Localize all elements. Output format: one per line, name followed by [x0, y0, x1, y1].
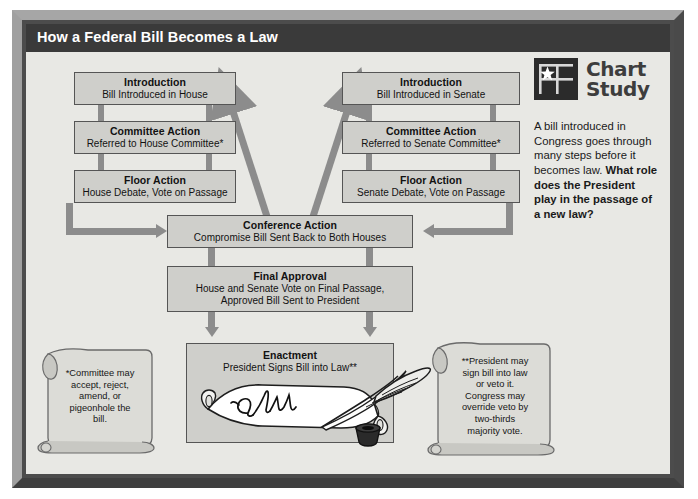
box-title: Enactment: [263, 349, 317, 362]
right-note-line: or veto it.: [442, 379, 548, 391]
right-note-line: **President may: [442, 356, 548, 368]
flow-box-conference-action: Conference Action Compromise Bill Sent B…: [167, 215, 413, 248]
box-subtitle: President Signs Bill into Law**: [223, 362, 357, 374]
connector-conference-1: [208, 248, 215, 266]
right-note-line: majority vote.: [442, 426, 548, 438]
flow-box-final-approval: Final Approval House and Senate Vote on …: [167, 266, 413, 312]
left-note-line: pigeonhole the: [52, 403, 148, 415]
right-note-text: **President may sign bill into law or ve…: [442, 356, 548, 437]
box-title: Introduction: [124, 76, 186, 89]
poster-root: How a Federal Bill Becomes a Law Introdu…: [0, 0, 698, 499]
box-title: Floor Action: [400, 174, 462, 187]
flag-star-icon: [534, 58, 578, 100]
chart-study-logo: [534, 58, 578, 100]
flow-box-house-introduction: Introduction Bill Introduced in House: [74, 72, 236, 105]
connector-house-to-conference-h: [66, 228, 156, 235]
diagram-stage: How a Federal Bill Becomes a Law Introdu…: [26, 24, 670, 474]
right-note-line: sign bill into law: [442, 368, 548, 380]
connector-house-1: [98, 105, 104, 121]
connector-senate-2: [490, 105, 496, 121]
chart-study-heading-line2: Study: [586, 80, 650, 100]
box-subtitle: Compromise Bill Sent Back to Both Houses: [194, 232, 386, 244]
connector-senate-4: [490, 154, 496, 170]
left-note-line: amend, or: [52, 391, 148, 403]
connector-house-2: [206, 105, 212, 121]
page-title: How a Federal Bill Becomes a Law: [37, 29, 278, 45]
left-note-line: *Committee may: [52, 368, 148, 380]
box-subtitle: Referred to House Committee*: [87, 138, 224, 150]
connector-senate-1: [366, 105, 372, 121]
box-subtitle: Bill Introduced in House: [102, 89, 208, 101]
connector-conference-2: [366, 248, 373, 266]
box-title: Committee Action: [110, 125, 200, 138]
right-note-line: Congress may: [442, 391, 548, 403]
flow-box-enactment: Enactment President Signs Bill into Law*…: [186, 343, 394, 443]
flow-box-house-floor: Floor Action House Debate, Vote on Passa…: [74, 170, 236, 203]
box-title: Floor Action: [124, 174, 186, 187]
box-subtitle-line2: Approved Bill Sent to President: [221, 295, 359, 307]
box-title: Conference Action: [243, 219, 337, 232]
flow-box-house-committee: Committee Action Referred to House Commi…: [74, 121, 236, 154]
connector-house-3: [98, 154, 104, 170]
flow-box-senate-committee: Committee Action Referred to Senate Comm…: [342, 121, 520, 154]
arrow-senate-to-conference: [423, 224, 434, 238]
chart-study-heading: Chart Study: [586, 60, 650, 99]
box-subtitle: Senate Debate, Vote on Passage: [357, 187, 505, 199]
box-title: Final Approval: [253, 270, 326, 283]
connector-senate-to-conference-h: [434, 228, 513, 235]
arrow-house-to-conference: [156, 224, 167, 238]
arrow-final-to-enactment-right: [363, 327, 377, 337]
arrow-final-to-enactment-left: [205, 327, 219, 337]
flow-box-senate-introduction: Introduction Bill Introduced in Senate: [342, 72, 520, 105]
chart-study-body: A bill introduced in Congress goes throu…: [534, 119, 658, 222]
title-bar: How a Federal Bill Becomes a Law: [26, 24, 670, 52]
left-note-line: bill.: [52, 414, 148, 426]
box-subtitle: Bill Introduced in Senate: [377, 89, 485, 101]
left-note-text: *Committee may accept, reject, amend, or…: [52, 368, 148, 426]
box-subtitle-line1: House and Senate Vote on Final Passage,: [196, 283, 384, 295]
connector-house-4: [206, 154, 212, 170]
left-note-scroll: *Committee may accept, reject, amend, or…: [30, 346, 160, 456]
connector-senate-3: [366, 154, 372, 170]
right-note-line: override veto by: [442, 402, 548, 414]
left-note-line: accept, reject,: [52, 380, 148, 392]
flow-box-senate-floor: Floor Action Senate Debate, Vote on Pass…: [342, 170, 520, 203]
box-subtitle: Referred to Senate Committee*: [361, 138, 501, 150]
box-title: Committee Action: [386, 125, 476, 138]
right-note-scroll: **President may sign bill into law or ve…: [422, 340, 562, 460]
box-title: Introduction: [400, 76, 462, 89]
box-subtitle: House Debate, Vote on Passage: [82, 187, 227, 199]
right-note-line: two-thirds: [442, 414, 548, 426]
